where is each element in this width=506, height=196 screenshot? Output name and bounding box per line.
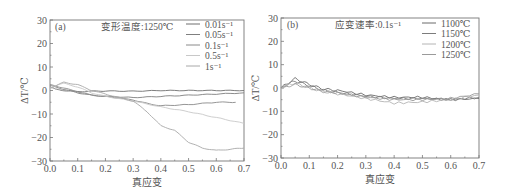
legend-label: 0.05s⁻¹	[205, 30, 233, 40]
y-tick-label: 30	[268, 13, 278, 24]
x-tick-label: 0.2	[331, 160, 344, 171]
y-tick-label: −30	[262, 153, 278, 164]
legend-label: 1s⁻¹	[205, 62, 221, 72]
y-tick-label: 10	[268, 59, 278, 70]
y-tick-label: −30	[31, 156, 47, 167]
series-line	[281, 81, 479, 100]
legend-label: 1200℃	[441, 40, 471, 50]
legend-label: 0.5s⁻¹	[205, 51, 229, 61]
chart-panel-a: 0.00.10.20.30.40.50.60.73020100−10−20−30…	[19, 15, 250, 189]
y-tick-label: 30	[37, 15, 47, 26]
x-tick-label: 0.3	[127, 163, 140, 174]
x-tick-label: 0.5	[182, 163, 195, 174]
y-tick-label: 0	[273, 83, 278, 94]
x-tick-label: 0.6	[210, 163, 223, 174]
chart-title: 变形温度:1250℃	[101, 21, 174, 32]
y-axis-title: ΔT/℃	[19, 77, 30, 104]
y-tick-label: −10	[31, 109, 47, 120]
x-tick-label: 0.5	[416, 160, 429, 171]
legend-label: 1100℃	[441, 19, 471, 29]
x-tick-label: 0.7	[473, 160, 486, 171]
x-tick-label: 0.1	[303, 160, 316, 171]
y-tick-label: −20	[262, 129, 278, 140]
legend-label: 0.01s⁻¹	[205, 20, 233, 30]
y-tick-label: −20	[31, 132, 47, 143]
y-tick-label: 20	[268, 36, 278, 47]
legend-label: 1150℃	[441, 29, 471, 39]
x-tick-label: 0.7	[238, 163, 251, 174]
x-tick-label: 0.1	[71, 163, 84, 174]
legend-label: 1250℃	[441, 50, 471, 60]
panel-label: (a)	[55, 22, 66, 33]
chart-panel-b: 0.00.10.20.30.40.50.60.73020100−10−20−30…	[250, 13, 485, 186]
chart-title: 应变速率:0.1s⁻¹	[335, 19, 401, 30]
y-tick-label: 0	[42, 85, 47, 96]
panel-label: (b)	[287, 20, 298, 31]
x-tick-label: 0.4	[388, 160, 401, 171]
y-axis-title: ΔT/℃	[250, 75, 261, 102]
legend-label: 0.1s⁻¹	[205, 41, 229, 51]
x-axis-title: 真应变	[132, 176, 162, 188]
figure: 0.00.10.20.30.40.50.60.73020100−10−20−30…	[0, 0, 506, 196]
x-tick-label: 0.4	[155, 163, 168, 174]
x-tick-label: 0.2	[99, 163, 112, 174]
y-tick-label: 10	[37, 62, 47, 73]
y-tick-label: 20	[37, 38, 47, 49]
x-tick-label: 0.3	[360, 160, 373, 171]
y-tick-label: −10	[262, 106, 278, 117]
x-tick-label: 0.6	[444, 160, 457, 171]
x-axis-title: 真应变	[365, 173, 395, 185]
